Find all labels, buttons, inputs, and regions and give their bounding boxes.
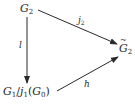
node-quotient: G1/j1(G0) — [3, 86, 50, 101]
node-g2: G2 — [20, 3, 33, 18]
label-h: h — [84, 79, 90, 89]
node-g2-tilde-sub: 2 — [128, 48, 132, 56]
label-l-base: l — [19, 40, 22, 50]
node-g2-sub: 2 — [29, 8, 33, 16]
label-j2-sub: 2 — [81, 19, 85, 26]
node-g2-tilde: G2 — [119, 43, 132, 58]
quotient-g0: G — [32, 85, 41, 98]
node-g2-base: G — [20, 2, 29, 15]
quotient-paren-close: ) — [45, 85, 49, 98]
quotient-g: G — [3, 85, 12, 98]
label-j2: j2 — [78, 15, 85, 28]
label-h-base: h — [84, 79, 90, 89]
node-g2-tilde-base: G — [119, 43, 128, 55]
label-l: l — [19, 40, 22, 50]
